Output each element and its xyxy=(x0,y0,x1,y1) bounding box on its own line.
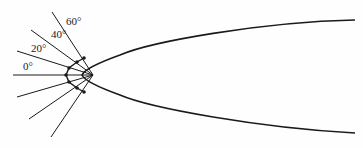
parabola-curve xyxy=(82,20,355,133)
diagram-canvas: 0° 20° 40° 60° xyxy=(0,0,363,148)
angle-label-40: 40° xyxy=(51,29,66,40)
angle-label-60: 60° xyxy=(66,16,81,27)
angle-label-0: 0° xyxy=(23,61,33,72)
ray-40-deg-down xyxy=(29,75,93,119)
ray-20-deg-down xyxy=(17,75,93,97)
angle-label-20: 20° xyxy=(31,43,46,54)
parabola-ray-diagram xyxy=(0,0,363,148)
